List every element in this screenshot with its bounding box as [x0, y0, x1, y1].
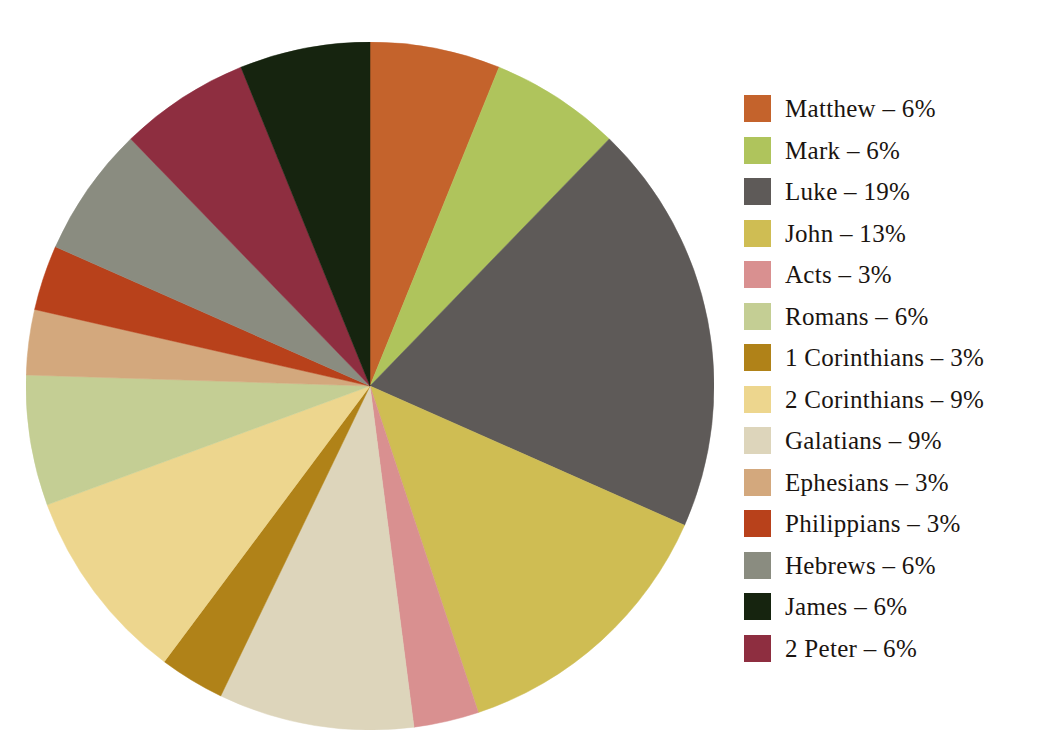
legend-item-label: Ephesians – 3%: [785, 470, 949, 495]
legend-item-label: Romans – 6%: [785, 304, 929, 329]
legend-item[interactable]: Galatians – 9%: [744, 420, 1034, 462]
legend-color-swatch: [744, 386, 771, 413]
legend-item[interactable]: Philippians – 3%: [744, 503, 1034, 545]
legend-color-swatch: [744, 137, 771, 164]
legend-color-swatch: [744, 593, 771, 620]
legend-item[interactable]: Ephesians – 3%: [744, 462, 1034, 504]
legend-item-label: 2 Peter – 6%: [785, 636, 917, 661]
pie-chart-graphic: [26, 42, 714, 730]
legend-item[interactable]: 2 Peter – 6%: [744, 628, 1034, 670]
legend-item-label: John – 13%: [785, 221, 906, 246]
legend-item[interactable]: Mark – 6%: [744, 130, 1034, 172]
legend-item[interactable]: Romans – 6%: [744, 296, 1034, 338]
legend-color-swatch: [744, 220, 771, 247]
legend-item[interactable]: 2 Corinthians – 9%: [744, 379, 1034, 421]
legend-item[interactable]: Acts – 3%: [744, 254, 1034, 296]
pie-slice-group: [26, 42, 714, 730]
legend-color-swatch: [744, 635, 771, 662]
legend-color-swatch: [744, 178, 771, 205]
legend-item-label: James – 6%: [785, 594, 907, 619]
legend-color-swatch: [744, 469, 771, 496]
legend-item-label: Mark – 6%: [785, 138, 900, 163]
legend-item-label: Galatians – 9%: [785, 428, 942, 453]
legend-item-label: Hebrews – 6%: [785, 553, 936, 578]
legend-item[interactable]: Luke – 19%: [744, 171, 1034, 213]
legend-item-label: 2 Corinthians – 9%: [785, 387, 984, 412]
legend-color-swatch: [744, 95, 771, 122]
legend-item[interactable]: James – 6%: [744, 586, 1034, 628]
legend-item-label: Matthew – 6%: [785, 96, 936, 121]
legend-color-swatch: [744, 427, 771, 454]
chart-legend: Matthew – 6%Mark – 6%Luke – 19%John – 13…: [744, 88, 1034, 669]
legend-color-swatch: [744, 303, 771, 330]
legend-item[interactable]: John – 13%: [744, 213, 1034, 255]
legend-item-label: Luke – 19%: [785, 179, 910, 204]
legend-item-label: Philippians – 3%: [785, 511, 961, 536]
pie-svg: [26, 42, 714, 730]
legend-color-swatch: [744, 552, 771, 579]
legend-item-label: 1 Corinthians – 3%: [785, 345, 984, 370]
legend-item[interactable]: Hebrews – 6%: [744, 545, 1034, 587]
legend-item[interactable]: Matthew – 6%: [744, 88, 1034, 130]
legend-color-swatch: [744, 510, 771, 537]
legend-item-label: Acts – 3%: [785, 262, 892, 287]
legend-color-swatch: [744, 344, 771, 371]
pie-chart-figure: Matthew – 6%Mark – 6%Luke – 19%John – 13…: [0, 0, 1039, 756]
legend-color-swatch: [744, 261, 771, 288]
legend-item[interactable]: 1 Corinthians – 3%: [744, 337, 1034, 379]
